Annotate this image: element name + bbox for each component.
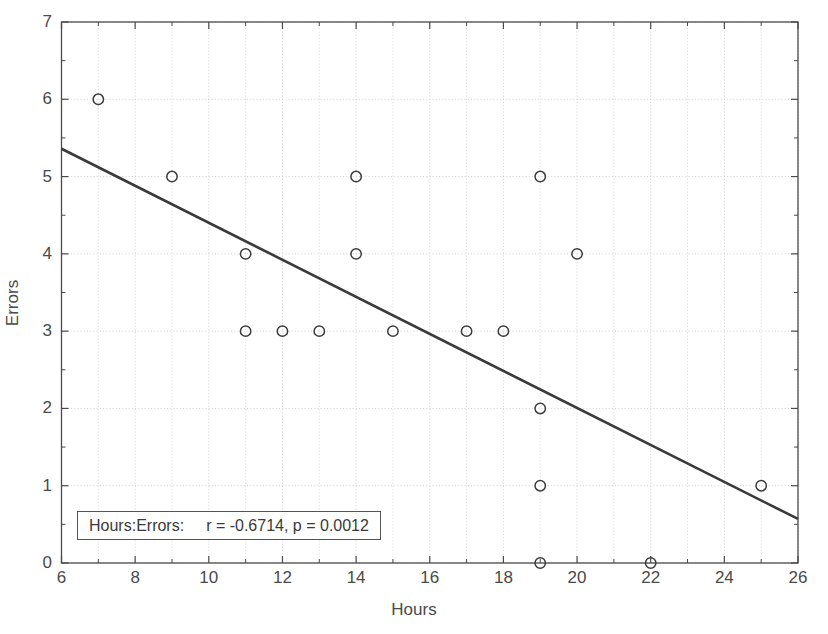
x-tick-label: 16 [420,568,439,588]
x-axis-title: Hours [0,600,828,620]
y-tick-label: 3 [26,321,52,341]
x-tick-label: 10 [199,568,218,588]
y-tick-label: 5 [26,167,52,187]
annotation-pair-label: Hours:Errors: [89,517,184,535]
x-tick-label: 12 [273,568,292,588]
data-point-marker [240,326,250,336]
data-point-marker [314,326,324,336]
data-point-marker [535,403,545,413]
x-tick-label: 14 [347,568,366,588]
x-tick-label: 22 [641,568,660,588]
x-tick-label: 8 [130,568,139,588]
y-tick-label: 4 [26,244,52,264]
axis-ticks [62,22,799,563]
x-tick-label: 18 [494,568,513,588]
y-tick-label: 2 [26,398,52,418]
scatter-plot-figure: 68101214161820222426 01234567 Hours Erro… [0,0,828,634]
correlation-annotation-box: Hours:Errors: r = -0.6714, p = 0.0012 [77,511,381,540]
data-point-marker [461,326,471,336]
data-point-marker [240,249,250,259]
plot-frame [62,22,799,563]
x-tick-label: 6 [57,568,66,588]
x-tick-label: 24 [715,568,734,588]
grid-layer [62,22,799,563]
y-tick-label: 0 [26,553,52,573]
y-tick-label: 1 [26,476,52,496]
x-tick-label: 26 [789,568,808,588]
data-point-marker [388,326,398,336]
trend-line [62,149,799,519]
y-tick-label: 6 [26,89,52,109]
annotation-stats-text: r = -0.6714, p = 0.0012 [206,517,369,535]
axis-frame [62,22,799,563]
y-tick-label: 7 [26,12,52,32]
regression-trend-line [62,149,799,519]
x-tick-label: 20 [568,568,587,588]
y-axis-title: Errors [3,253,23,353]
